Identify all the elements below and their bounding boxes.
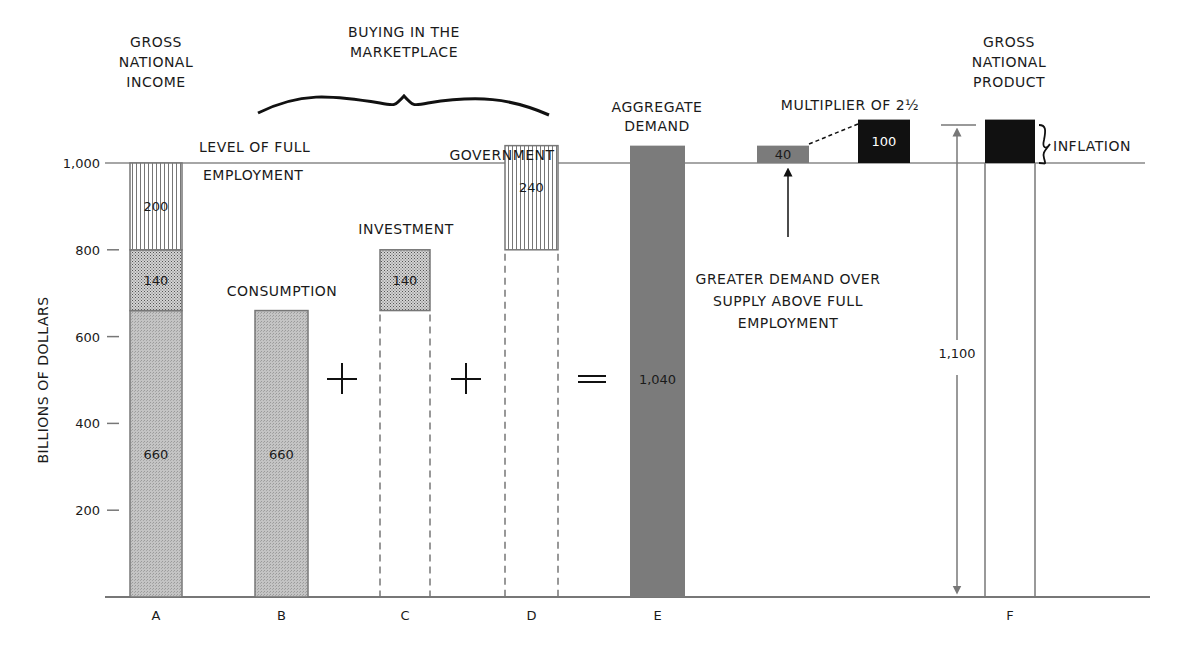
- category-label-A: A: [152, 608, 161, 623]
- operator-plus-1: [327, 363, 357, 394]
- title-gross-national-income: NATIONAL: [119, 54, 194, 70]
- category-label-C: C: [400, 608, 409, 623]
- full-employment-label: LEVEL OF FULL: [199, 139, 310, 155]
- category-label-B: B: [277, 608, 286, 623]
- multiplier-title: MULTIPLIER OF 2½: [781, 97, 919, 113]
- y-ticks: 2004006008001,000: [63, 156, 119, 518]
- bar-value-label: 1,040: [639, 372, 676, 387]
- title-gross-national-product: NATIONAL: [972, 54, 1047, 70]
- bar-value-label: 200: [144, 199, 169, 214]
- bar-value-label: 240: [519, 180, 544, 195]
- category-label-E: E: [653, 608, 661, 623]
- category-label-D: D: [526, 608, 536, 623]
- bar-value-label: 660: [269, 447, 294, 462]
- y-axis-label: BILLIONS OF DOLLARS: [35, 296, 51, 463]
- y-tick-label: 1,000: [63, 156, 100, 171]
- title-consumption: CONSUMPTION: [227, 283, 338, 299]
- title-gross-national-income: GROSS: [130, 34, 182, 50]
- full-employment-label: EMPLOYMENT: [203, 167, 303, 183]
- y-tick-label: 800: [75, 243, 100, 258]
- operator-equals: [578, 376, 606, 382]
- title-investment: INVESTMENT: [358, 221, 453, 237]
- marketplace-brace: [258, 96, 549, 115]
- gnp-total-label: 1,100: [938, 346, 975, 361]
- multiplier-connector: [809, 124, 858, 144]
- y-tick-label: 200: [75, 503, 100, 518]
- inflation-label: INFLATION: [1053, 138, 1131, 154]
- bar-value-label: 140: [393, 273, 418, 288]
- title-gross-national-product: GROSS: [983, 34, 1035, 50]
- greater-demand-label: SUPPLY ABOVE FULL: [713, 293, 863, 309]
- title-government: GOVERNMENT: [449, 147, 554, 163]
- category-labels: ABCDEF: [152, 608, 1014, 623]
- category-label-F: F: [1006, 608, 1013, 623]
- bars: [130, 120, 1035, 597]
- y-tick-label: 400: [75, 416, 100, 431]
- bar-value-label: 660: [144, 447, 169, 462]
- title-buying-in-marketplace: MARKETPLACE: [350, 44, 458, 60]
- title-gross-national-product: PRODUCT: [973, 74, 1045, 90]
- operator-plus-2: [451, 363, 481, 394]
- inflation-brace: [1039, 125, 1050, 164]
- greater-demand-label: EMPLOYMENT: [738, 315, 838, 331]
- inflation-gap-label: 100: [872, 134, 897, 149]
- bar-F-inflation: [985, 120, 1035, 163]
- excess-demand-label: 40: [775, 147, 792, 162]
- bar-value-label: 140: [144, 273, 169, 288]
- title-gross-national-income: INCOME: [126, 74, 185, 90]
- chart: BILLIONS OF DOLLARS 2004006008001,000 66…: [0, 0, 1188, 656]
- title-aggregate-demand: DEMAND: [624, 118, 690, 134]
- greater-demand-label: GREATER DEMAND OVER: [696, 271, 881, 287]
- title-aggregate-demand: AGGREGATE: [612, 99, 703, 115]
- title-buying-in-marketplace: BUYING IN THE: [348, 24, 460, 40]
- y-tick-label: 600: [75, 330, 100, 345]
